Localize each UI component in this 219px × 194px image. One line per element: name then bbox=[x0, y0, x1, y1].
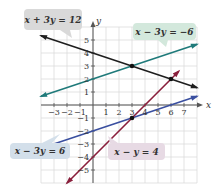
svg-text:−2: −2 bbox=[77, 127, 89, 136]
svg-text:2: 2 bbox=[84, 75, 89, 84]
label-eq-x-minus-y-4: x − y = 4 bbox=[108, 143, 165, 160]
svg-text:x: x bbox=[206, 100, 211, 110]
svg-text:4: 4 bbox=[142, 108, 147, 117]
svg-text:1: 1 bbox=[103, 108, 108, 117]
svg-text:6: 6 bbox=[168, 108, 173, 117]
svg-text:−5: −5 bbox=[77, 166, 89, 175]
svg-text:−4: −4 bbox=[77, 153, 89, 162]
svg-text:−3: −3 bbox=[48, 108, 60, 117]
svg-text:−2: −2 bbox=[61, 108, 73, 117]
svg-text:5: 5 bbox=[155, 108, 160, 117]
svg-text:2: 2 bbox=[116, 108, 121, 117]
svg-text:3: 3 bbox=[84, 62, 89, 71]
svg-text:1: 1 bbox=[84, 88, 89, 97]
svg-text:y: y bbox=[95, 16, 102, 26]
svg-text:−3: −3 bbox=[77, 140, 89, 149]
svg-text:4: 4 bbox=[84, 49, 89, 58]
label-eq-x-minus-3y-neg6: x − 3y = −6 bbox=[133, 23, 196, 40]
svg-text:5: 5 bbox=[84, 36, 89, 45]
label-eq-x-minus-3y-6: x − 3y = 6 bbox=[10, 143, 70, 159]
label-eq-x-plus-3y-12: x + 3y = 12 bbox=[24, 9, 82, 30]
svg-text:3: 3 bbox=[129, 108, 134, 117]
svg-text:−1: −1 bbox=[77, 114, 89, 123]
svg-text:7: 7 bbox=[181, 108, 186, 117]
